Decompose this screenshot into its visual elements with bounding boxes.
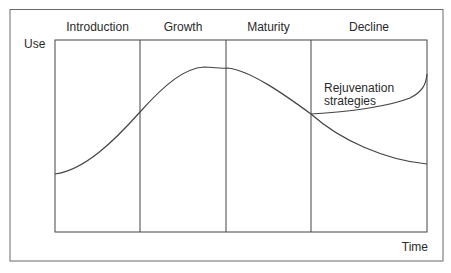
phase-label-introduction: Introduction [66,20,129,34]
x-axis-label: Time [402,240,429,254]
annotation-line-2: strategies [324,94,376,108]
lifecycle-diagram: Introduction Growth Maturity Decline Use… [0,0,451,273]
annotation-line-1: Rejuvenation [324,81,394,95]
plot-area [55,40,427,232]
phase-label-decline: Decline [349,20,389,34]
y-axis-label: Use [24,37,46,51]
phase-label-maturity: Maturity [247,20,290,34]
phase-label-growth: Growth [164,20,203,34]
